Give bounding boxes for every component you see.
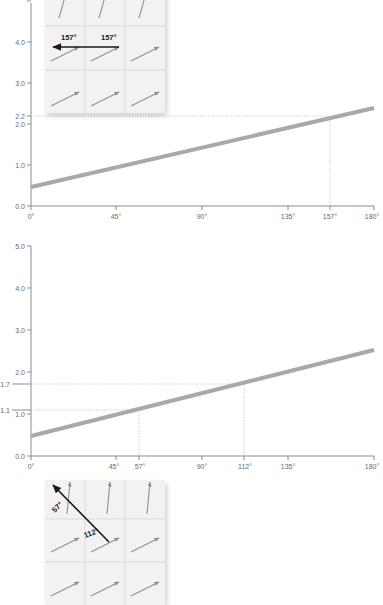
- data-line-top: [31, 108, 374, 187]
- y-tick-label: 1.0: [15, 411, 25, 418]
- x-tick-label: 45°: [111, 213, 122, 220]
- y-tick-label: 1.0: [15, 162, 25, 169]
- x-tick-label-readout: 57°: [135, 463, 146, 470]
- x-tick-label: 0°: [28, 463, 35, 470]
- inset-angle-label: 157°: [61, 33, 77, 42]
- x-tick-label: 135°: [281, 463, 296, 470]
- inset-vector-field-top: 157° 157°: [45, 0, 165, 113]
- x-tick-label: 45°: [109, 463, 120, 470]
- y-tick-label: 4.0: [15, 285, 25, 292]
- y-tick-label: 0.0: [15, 203, 25, 210]
- chart-panel-bottom: 0.0 1.0 2.0 3.0 4.0 5.0 1.7 1.1 0° 45° 5…: [0, 240, 383, 484]
- x-ticks-top: [31, 206, 374, 210]
- y-tick-label: 3.0: [15, 80, 25, 87]
- y-tick-label-readout: 2.2: [15, 113, 25, 120]
- y-tick-label: 4.0: [15, 39, 25, 46]
- x-tick-label: 90°: [197, 213, 208, 220]
- x-tick-label: 180°: [365, 463, 380, 470]
- y-ticks-top: [27, 1, 31, 206]
- x-tick-label: 180°: [365, 213, 380, 220]
- y-tick-label: 0.0: [15, 453, 25, 460]
- x-tick-label: 0°: [28, 213, 35, 220]
- inset-svg-bottom: 57° 112°: [45, 480, 165, 605]
- x-tick-label: 90°: [197, 463, 208, 470]
- y-tick-label: 5.0: [15, 243, 25, 250]
- x-ticks-bottom: [31, 456, 374, 460]
- x-tick-label-readout: 112°: [238, 463, 252, 470]
- inset-vector-field-bottom: 57° 112°: [45, 480, 165, 605]
- y-readout-label-1-7: 1.7: [0, 381, 10, 388]
- y-tick-label: 3.0: [15, 327, 25, 334]
- x-tick-label-readout: 157°: [323, 213, 338, 220]
- y-tick-label: 2.0: [15, 121, 25, 128]
- inset-svg-top: 157° 157°: [45, 0, 165, 113]
- x-tick-label: 135°: [281, 213, 296, 220]
- y-tick-label: 2.0: [15, 369, 25, 376]
- y-readout-label-1-1: 1.1: [0, 407, 10, 414]
- chart-panel-top: 0.0 1.0 2.0 2.2 3.0 4.0 0° 45° 90° 135° …: [0, 0, 383, 240]
- data-line-bottom: [31, 350, 374, 436]
- inset-angle-label: 157°: [101, 33, 117, 42]
- y-ticks-bottom: [27, 246, 31, 456]
- plot-area-bottom: 0.0 1.0 2.0 3.0 4.0 5.0 1.7 1.1 0° 45° 5…: [0, 240, 383, 484]
